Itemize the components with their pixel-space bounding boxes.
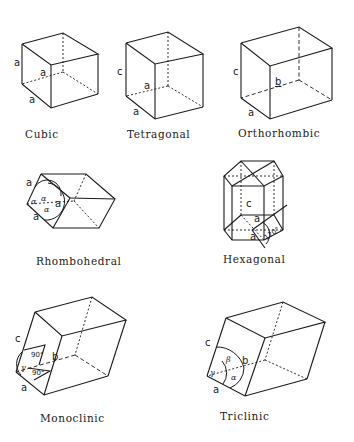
- triclinic-b-label: b: [242, 355, 248, 366]
- orthorhombic-cell: c b a: [233, 27, 332, 119]
- rhombohedral-alpha2: α: [41, 194, 47, 203]
- monoclinic-gamma: γ: [21, 363, 26, 372]
- tetragonal-side-label: c: [117, 66, 123, 77]
- caption-triclinic: Triclinic: [220, 410, 269, 422]
- monoclinic-cell: c b a 90° 90° γ: [15, 297, 126, 395]
- cubic-base-label: a: [29, 94, 35, 105]
- orthorhombic-side-label: c: [233, 66, 239, 77]
- caption-tetragonal: Tetragonal: [127, 128, 190, 140]
- caption-cubic: Cubic: [25, 128, 59, 140]
- orthorhombic-base-label: a: [248, 107, 254, 118]
- hexagonal-a2-label: a: [250, 231, 256, 242]
- caption-monoclinic: Monoclinic: [40, 412, 105, 424]
- triclinic-a-label: a: [213, 384, 219, 395]
- monoclinic-c-label: c: [15, 333, 21, 344]
- hexagonal-cell: c a a 120°: [224, 161, 287, 248]
- triclinic-beta: β: [225, 355, 231, 364]
- tetragonal-base-label: a: [133, 106, 139, 117]
- caption-rhombohedral: Rhombohedral: [36, 255, 122, 267]
- monoclinic-angle2: 90°: [32, 369, 44, 377]
- caption-orthorhombic: Orthorhombic: [238, 127, 320, 139]
- hexagonal-c-label: c: [246, 198, 252, 209]
- rhombohedral-alpha1: α: [31, 197, 37, 206]
- hexagonal-angle-label: 120°: [263, 226, 281, 242]
- hexagonal-a1-label: a: [254, 213, 260, 224]
- caption-hexagonal: Hexagonal: [223, 253, 285, 265]
- rhombohedral-a2-label: a: [55, 198, 61, 209]
- tetragonal-cell: c a a: [117, 32, 203, 119]
- cubic-side-label: a: [14, 57, 20, 68]
- cubic-depth-label: a: [40, 67, 46, 78]
- rhombohedral-a1-label: a: [26, 177, 32, 188]
- monoclinic-a-label: a: [21, 382, 27, 393]
- triclinic-cell: c b a β γ α: [205, 302, 325, 396]
- triclinic-c-label: c: [205, 337, 211, 348]
- orthorhombic-depth-label: b: [275, 76, 281, 87]
- monoclinic-angle1: 90°: [31, 351, 43, 359]
- rhombohedral-cell: a a a α α α: [26, 174, 115, 228]
- tetragonal-depth-label: a: [144, 80, 150, 91]
- triclinic-alpha: α: [231, 373, 237, 382]
- rhombohedral-alpha3: α: [44, 205, 50, 214]
- monoclinic-b-label: b: [52, 351, 58, 362]
- triclinic-gamma: γ: [210, 368, 215, 377]
- cubic-cell: a a a: [14, 33, 98, 108]
- crystal-systems-diagram: a a a c a a c b a: [0, 0, 354, 442]
- diagram-svg: a a a c a a c b a: [0, 0, 354, 442]
- rhombohedral-a3-label: a: [33, 211, 39, 222]
